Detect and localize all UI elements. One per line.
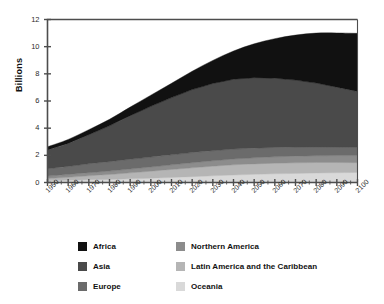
legend-label: Asia (93, 262, 110, 271)
legend-item-europe[interactable]: Europe (78, 282, 176, 291)
legend-item-africa[interactable]: Africa (78, 242, 176, 251)
chart-legend: AfricaNorthern AmericaAsiaLatin America … (78, 236, 368, 296)
legend-item-latin-america-and-the-caribbean[interactable]: Latin America and the Caribbean (176, 262, 368, 271)
legend-swatch-icon (78, 242, 87, 251)
legend-label: Oceania (191, 282, 222, 291)
legend-label: Latin America and the Caribbean (191, 262, 317, 271)
legend-item-northern-america[interactable]: Northern America (176, 242, 368, 251)
population-stacked-area-chart: Billions 024681012 195019601970198019902… (0, 0, 384, 304)
legend-swatch-icon (176, 262, 185, 271)
legend-item-oceania[interactable]: Oceania (176, 282, 368, 291)
legend-swatch-icon (176, 242, 185, 251)
legend-swatch-icon (176, 282, 185, 291)
legend-item-asia[interactable]: Asia (78, 262, 176, 271)
legend-label: Africa (93, 242, 116, 251)
legend-label: Europe (93, 282, 121, 291)
legend-label: Northern America (191, 242, 259, 251)
legend-swatch-icon (78, 262, 87, 271)
legend-swatch-icon (78, 282, 87, 291)
